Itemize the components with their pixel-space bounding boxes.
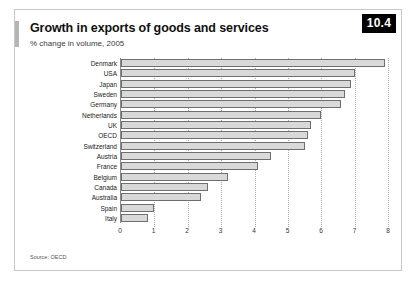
category-label: Sweden [94,91,118,98]
bar [121,80,351,88]
chart-subtitle: % change in volume, 2005 [30,39,124,48]
category-label: Italy [105,214,117,221]
bar-row: Italy [121,214,388,222]
category-label: OECD [98,132,117,139]
bar [121,111,321,119]
category-label: Germany [90,101,117,108]
category-label: Japan [99,80,117,87]
x-tick-label: 4 [252,227,256,234]
title-accent-bar [15,21,19,47]
bar-row: USA [121,69,388,77]
chart-figure: 10.4 Growth in exports of goods and serv… [14,9,402,271]
bar [121,131,308,139]
bar-row: OECD [121,131,388,139]
bar-row: Germany [121,100,388,108]
category-label: Denmark [91,60,117,67]
chart-title: Growth in exports of goods and services [30,21,269,35]
bars-canvas: DenmarkUSAJapanSwedenGermanyNetherlandsU… [120,58,388,223]
bar-row: Netherlands [121,111,388,119]
bar-row: Canada [121,183,388,191]
category-label: Austria [97,152,117,159]
x-tick-label: 1 [152,227,156,234]
category-label: Canada [94,183,117,190]
bar [121,193,201,201]
category-label: Netherlands [82,111,117,118]
x-tick-label: 5 [286,227,290,234]
bar-row: Sweden [121,90,388,98]
category-label: USA [104,70,117,77]
bar-row: Spain [121,204,388,212]
bar-row: Japan [121,80,388,88]
x-axis: 012345678 [120,223,388,239]
category-label: Australia [92,194,117,201]
source-note: Source: OECD [30,254,66,260]
gridline [388,58,389,227]
x-tick-label: 8 [386,227,390,234]
bar-row: Denmark [121,59,388,67]
bar-row: Belgium [121,173,388,181]
bar [121,183,208,191]
category-label: Belgium [94,173,117,180]
x-tick-label: 3 [219,227,223,234]
bar [121,142,305,150]
x-tick-label: 2 [185,227,189,234]
chart-number-badge: 10.4 [362,14,396,33]
bar [121,90,345,98]
bar-rows: DenmarkUSAJapanSwedenGermanyNetherlandsU… [121,58,388,223]
bar [121,152,271,160]
bar-row: Austria [121,152,388,160]
bar-row: France [121,162,388,170]
category-label: Spain [100,204,117,211]
x-tick-label: 7 [353,227,357,234]
bar [121,59,385,67]
plot-area: DenmarkUSAJapanSwedenGermanyNetherlandsU… [60,58,388,223]
bar-row: UK [121,121,388,129]
bar [121,162,258,170]
bar [121,69,355,77]
category-label: Switzerland [83,142,117,149]
x-tick-label: 6 [319,227,323,234]
bar-row: Australia [121,193,388,201]
bar [121,173,228,181]
x-tick-label: 0 [118,227,122,234]
bar [121,100,341,108]
bar [121,121,311,129]
bar-row: Switzerland [121,142,388,150]
bar [121,214,148,222]
category-label: UK [108,122,117,129]
category-label: France [97,163,117,170]
bar [121,204,154,212]
